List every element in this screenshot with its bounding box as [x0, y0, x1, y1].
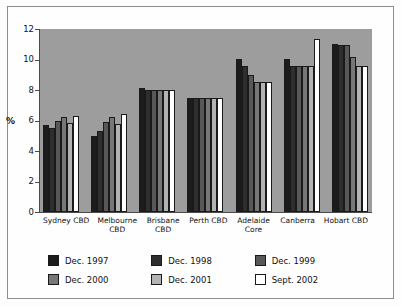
legend-label: Dec. 1997	[65, 256, 108, 266]
x-axis-label-line: Brisbane	[145, 216, 181, 225]
bar[interactable]	[266, 82, 272, 212]
x-axis-label-line: Melbourne	[97, 216, 137, 225]
bar-group	[91, 29, 127, 212]
bar-groups	[39, 29, 372, 212]
legend-swatch	[48, 255, 59, 266]
bar[interactable]	[73, 116, 79, 212]
legend-item[interactable]: Dec. 1998	[151, 252, 254, 269]
legend-label: Dec. 2000	[65, 275, 108, 285]
x-axis-label: Sydney CBD	[43, 216, 89, 234]
legend-item[interactable]: Dec. 2001	[151, 271, 254, 288]
plot-area	[39, 29, 372, 212]
x-axis-line	[39, 212, 372, 213]
x-axis-label-line: Adelaide	[236, 216, 272, 225]
bar[interactable]	[314, 39, 320, 212]
chart-legend: Dec. 1997Dec. 1998Dec. 1999Dec. 2000Dec.…	[48, 252, 358, 288]
x-axis-label-line: CBD	[97, 225, 137, 234]
x-axis-label-line: Sydney CBD	[43, 216, 89, 225]
bar-group	[139, 29, 175, 212]
legend-swatch	[48, 274, 59, 285]
chart-figure: 024681012 % Sydney CBDMelbourneCBDBrisba…	[0, 0, 401, 306]
x-axis-label: MelbourneCBD	[97, 216, 137, 234]
x-axis-label-line: CBD	[145, 225, 181, 234]
bar-group	[284, 29, 320, 212]
x-axis-label-line: Core	[236, 225, 272, 234]
x-axis-label: Canberra	[280, 216, 316, 234]
bar[interactable]	[217, 98, 223, 212]
legend-label: Sept. 2002	[272, 275, 318, 285]
legend-swatch	[151, 255, 162, 266]
legend-swatch	[151, 274, 162, 285]
x-axis-label-line: Canberra	[280, 216, 316, 225]
bar[interactable]	[169, 90, 175, 212]
bar[interactable]	[362, 66, 368, 212]
x-axis-label: BrisbaneCBD	[145, 216, 181, 234]
y-axis-line	[39, 29, 40, 212]
legend-item[interactable]: Dec. 1999	[255, 252, 358, 269]
x-axis-category-labels: Sydney CBDMelbourneCBDBrisbaneCBDPerth C…	[39, 216, 372, 234]
legend-item[interactable]: Dec. 1997	[48, 252, 151, 269]
bar-group	[332, 29, 368, 212]
legend-item[interactable]: Dec. 2000	[48, 271, 151, 288]
x-axis-label-line: Perth CBD	[189, 216, 227, 225]
x-axis-label-line: Hobart CBD	[324, 216, 368, 225]
legend-label: Dec. 2001	[168, 275, 211, 285]
bar-group	[43, 29, 79, 212]
legend-swatch	[255, 255, 266, 266]
x-axis-label: AdelaideCore	[236, 216, 272, 234]
legend-label: Dec. 1998	[168, 256, 211, 266]
x-axis-label: Perth CBD	[189, 216, 227, 234]
legend-item[interactable]: Sept. 2002	[255, 271, 358, 288]
legend-swatch	[255, 274, 266, 285]
legend-label: Dec. 1999	[272, 256, 315, 266]
bar[interactable]	[121, 114, 127, 212]
y-axis-label: %	[6, 116, 26, 126]
bar-group	[187, 29, 223, 212]
bar-group	[236, 29, 272, 212]
x-axis-label: Hobart CBD	[324, 216, 368, 234]
